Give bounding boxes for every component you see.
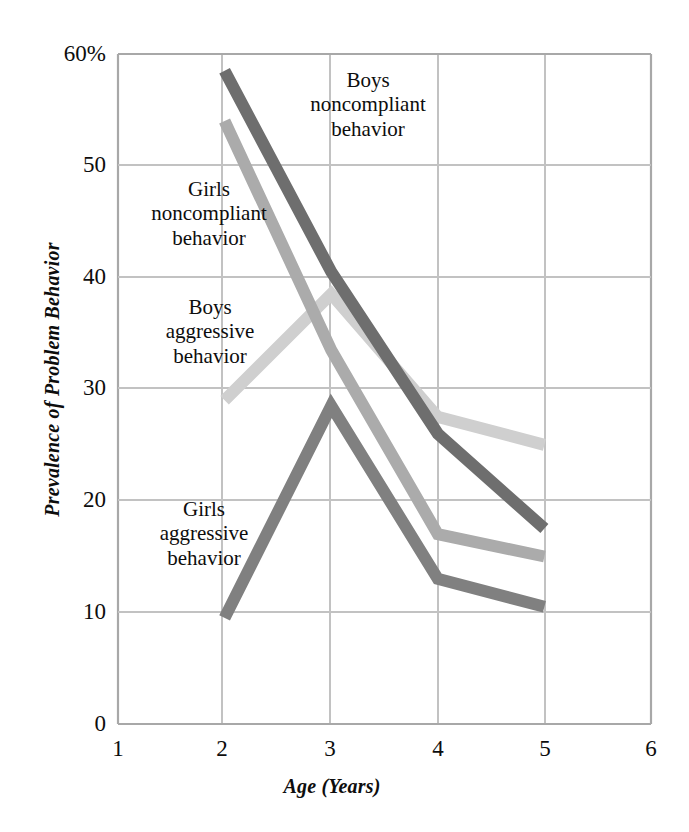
annotation-line-3: behavior: [268, 117, 468, 141]
ytick-0: 0: [30, 711, 106, 737]
xtick-3: 3: [310, 736, 350, 762]
annotation-line-1: Boys: [268, 68, 468, 92]
xtick-1: 1: [98, 736, 138, 762]
ytick-60: 60%: [30, 41, 106, 67]
annotation-line-2: aggressive: [132, 319, 288, 343]
annotation-boys-noncompliant: Boys noncompliant behavior: [268, 68, 468, 141]
annotation-girls-aggressive: Girls aggressive behavior: [126, 497, 282, 570]
xtick-2: 2: [202, 736, 242, 762]
y-axis-title: Prevalence of Problem Behavior: [41, 210, 64, 550]
xtick-5: 5: [525, 736, 565, 762]
xtick-6: 6: [631, 736, 671, 762]
annotation-boys-aggressive: Boys aggressive behavior: [132, 295, 288, 368]
chart-figure: 60% 50 40 30 20 10 0 1 2 3 4 5 6 Prevale…: [0, 0, 689, 832]
annotation-line-1: Girls: [116, 177, 302, 201]
annotation-line-1: Girls: [126, 497, 282, 521]
annotation-line-3: behavior: [132, 344, 288, 368]
xtick-4: 4: [418, 736, 458, 762]
ytick-10: 10: [30, 599, 106, 625]
annotation-line-2: noncompliant: [116, 201, 302, 225]
annotation-line-3: behavior: [116, 226, 302, 250]
grid-horizontal: [118, 54, 651, 724]
annotation-line-2: noncompliant: [268, 92, 468, 116]
annotation-line-2: aggressive: [126, 521, 282, 545]
annotation-line-3: behavior: [126, 546, 282, 570]
annotation-line-1: Boys: [132, 295, 288, 319]
annotation-girls-noncompliant: Girls noncompliant behavior: [116, 177, 302, 250]
ytick-50: 50: [30, 152, 106, 178]
x-axis-title: Age (Years): [222, 775, 442, 798]
